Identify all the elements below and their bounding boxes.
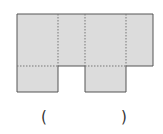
answer-paren-close: ) bbox=[121, 110, 127, 125]
answer-paren-open: ( bbox=[41, 110, 47, 125]
box-net-diagram bbox=[0, 0, 163, 134]
flap-right bbox=[85, 66, 126, 92]
face-top-row bbox=[17, 14, 153, 66]
flap-left bbox=[17, 66, 58, 92]
